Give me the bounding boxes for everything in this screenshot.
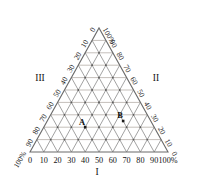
ternary-plot-canvas: 0102030405060708090100% 100%908070605040…	[0, 0, 198, 185]
tick-label-bottom: 60	[109, 156, 117, 165]
tick-label-left: 0	[88, 26, 98, 34]
data-points: AB	[79, 111, 124, 128]
axis-tick-labels-left: 100%9080706050403020100	[12, 26, 98, 170]
tick-label-bottom: 30	[67, 156, 75, 165]
ternary-diagram-figure: 0102030405060708090100% 100%908070605040…	[0, 0, 198, 185]
tick-label-bottom: 0	[28, 156, 32, 165]
axis-name-label-II: II	[153, 73, 159, 83]
axis-tick-labels-bottom: 0102030405060708090100%	[28, 156, 178, 165]
data-point-label-A: A	[79, 118, 85, 127]
tick-label-bottom: 90	[150, 156, 158, 165]
tick-label-bottom: 10	[40, 156, 48, 165]
data-point-label-B: B	[117, 111, 123, 120]
axis-name-label-III: III	[35, 73, 45, 83]
axis-tick-labels-right: 100%9080706050403020100	[101, 26, 180, 158]
tick-label-bottom: 100%	[158, 156, 177, 165]
axis-name-label-I: I	[95, 167, 98, 177]
tick-label-bottom: 70	[123, 156, 131, 165]
tick-label-bottom: 20	[54, 156, 62, 165]
tick-label-bottom: 80	[136, 156, 144, 165]
tick-label-left: 100%	[12, 149, 29, 169]
tick-label-bottom: 50	[95, 156, 103, 165]
tick-label-bottom: 40	[81, 156, 89, 165]
